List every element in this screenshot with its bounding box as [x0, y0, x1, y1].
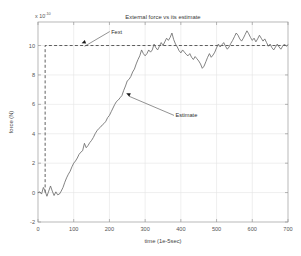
y-axis-exponent-base: x 10 — [35, 13, 45, 19]
matlab-figure-canvas: External force vs its estimate x 10-10 0… — [0, 0, 301, 256]
y-tick-label: 4 — [32, 131, 35, 137]
x-tick-label: 300 — [140, 226, 149, 232]
x-axis-title: time (1e-5sec) — [144, 238, 181, 244]
y-axis-title: force (N) — [8, 111, 14, 134]
y-axis-exponent-power: -10 — [45, 12, 51, 16]
y-tick-label: 10 — [29, 43, 35, 49]
x-tick-label: 400 — [176, 226, 185, 232]
y-tick-label: 0 — [32, 190, 35, 196]
chart-title: External force vs its estimate — [125, 14, 201, 20]
y-tick-label: 6 — [32, 101, 35, 107]
y-tick-label: 2 — [32, 160, 35, 166]
y-tick-label: -2 — [30, 219, 35, 225]
x-tick-label: 500 — [212, 226, 221, 232]
y-tick-label: 8 — [32, 72, 35, 78]
x-tick-label: 200 — [105, 226, 114, 232]
annotation-label: Estimate — [176, 112, 198, 118]
x-tick-label: 100 — [69, 226, 78, 232]
x-tick-label: 700 — [283, 226, 292, 232]
chart-plot: External force vs its estimate x 10-10 0… — [0, 0, 301, 256]
annotation-label: Fext — [111, 29, 122, 35]
x-tick-label: 600 — [248, 226, 257, 232]
x-tick-label: 0 — [36, 226, 39, 232]
